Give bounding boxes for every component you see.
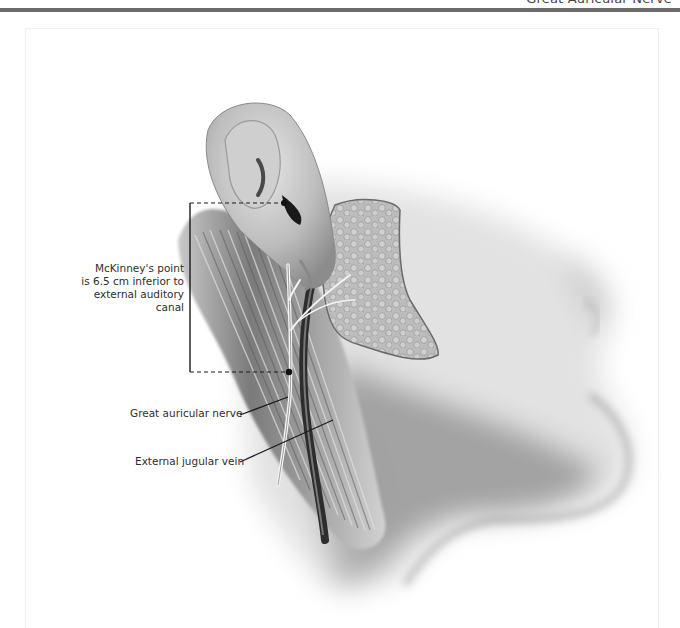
label-external-jugular-vein: External jugular vein <box>135 455 244 468</box>
label-line: McKinney's point <box>70 262 184 275</box>
label-great-auricular-nerve: Great auricular nerve <box>130 407 242 420</box>
label-line: external auditory canal <box>70 288 184 314</box>
mckinney-point-marker <box>286 369 292 375</box>
auditory-canal-marker <box>281 200 287 206</box>
label-line: is 6.5 cm inferior to <box>70 275 184 288</box>
label-mckinneys-point: McKinney's point is 6.5 cm inferior to e… <box>70 262 184 314</box>
